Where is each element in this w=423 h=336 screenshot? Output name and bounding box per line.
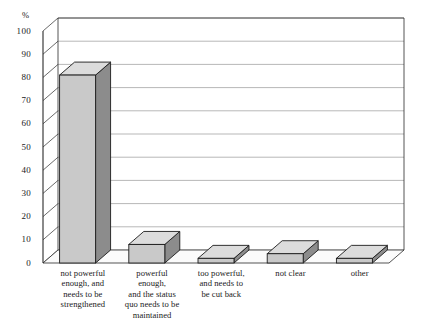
- bar-chart: % 0102030405060708090100 not powerfuleno…: [0, 0, 423, 336]
- category-labels: not powerfulenough, andneeds to bestreng…: [0, 264, 423, 336]
- category-label-line: maintained: [109, 310, 195, 320]
- category-label-line: other: [317, 268, 403, 278]
- category-label-line: quo needs to be: [109, 299, 195, 309]
- bar-0: [60, 62, 111, 263]
- category-label-line: and needs to: [178, 278, 264, 288]
- category-label-line: be cut back: [178, 289, 264, 299]
- category-label-4: other: [317, 268, 403, 278]
